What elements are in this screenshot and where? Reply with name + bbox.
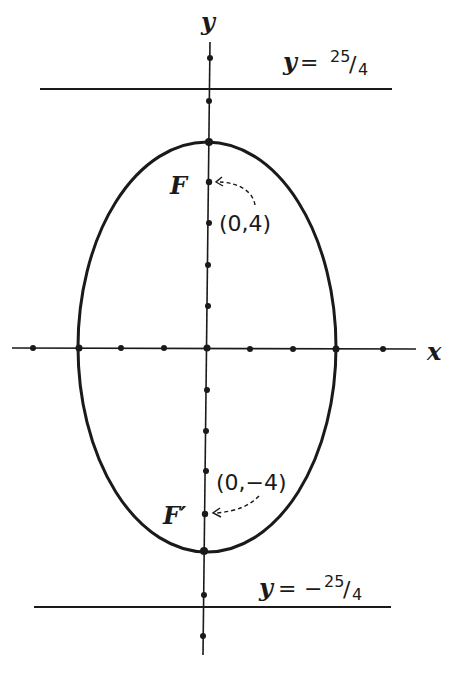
svg-text:−: −	[304, 576, 322, 601]
svg-text:y: y	[258, 573, 275, 602]
x-axis	[12, 348, 416, 349]
svg-text:=: =	[300, 50, 318, 75]
svg-text:/: /	[349, 52, 357, 77]
directrix-top-label: y = 25 / 4	[282, 47, 368, 79]
svg-text:4: 4	[352, 585, 362, 604]
focus-F-arrow	[216, 177, 255, 205]
svg-text:=: =	[278, 576, 296, 601]
directrix-bottom-label: y = − 25 / 4	[258, 572, 362, 604]
svg-text:25: 25	[324, 572, 344, 591]
focus-F-prime-point	[202, 511, 208, 517]
focus-F-prime-label: F′	[162, 501, 187, 530]
svg-text:25: 25	[330, 47, 350, 66]
ellipse-diagram: y x F (0,4) F′ (0,−4) y = 25 / 4 y = − 2…	[0, 0, 449, 673]
svg-text:4: 4	[358, 60, 368, 79]
svg-text:y: y	[282, 47, 299, 76]
focus-F-prime-coord-label: (0,−4)	[216, 470, 287, 495]
focus-F-label: F	[169, 171, 189, 200]
focus-F-prime-arrow	[213, 496, 259, 517]
focus-F-coord-label: (0,4)	[219, 211, 271, 236]
svg-text:/: /	[343, 577, 351, 602]
y-axis-label: y	[200, 7, 217, 36]
focus-F-point	[206, 179, 212, 185]
x-axis-label: x	[426, 337, 442, 366]
